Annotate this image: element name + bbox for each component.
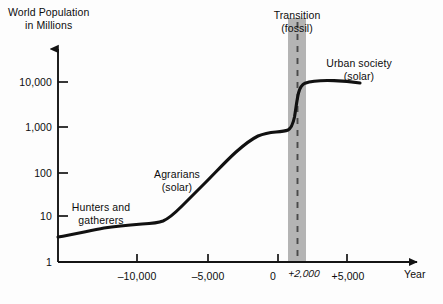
annotation-agrarians-line2: (solar) [144, 181, 210, 194]
y-axis-ticks [58, 82, 68, 216]
annotation-urban-society: Urban society (solar) [313, 57, 405, 83]
x-tick-label-0: 0 [262, 270, 284, 283]
population-growth-chart-figure: World Population in Millions Year 10,000… [0, 0, 443, 304]
y-tick-label-10000: 10,000 [0, 76, 52, 89]
annotation-transition-fossil: Transition (fossil) [254, 9, 340, 35]
annotation-agrarians-line1: Agrarians [144, 168, 210, 181]
annotation-urban-line2: (solar) [313, 70, 405, 83]
y-axis-title-line1: World Population [8, 6, 89, 19]
y-axis-title: World Population in Millions [8, 6, 89, 32]
transition-band [288, 18, 306, 262]
chart-plot-area [0, 0, 443, 304]
y-tick-label-100: 100 [0, 167, 52, 180]
y-tick-label-1000: 1,000 [0, 121, 52, 134]
annotation-transition-line2: (fossil) [254, 22, 340, 35]
annotation-agrarians: Agrarians (solar) [144, 168, 210, 194]
annotation-urban-line1: Urban society [313, 57, 405, 70]
x-tick-label-minus-10000: –10,000 [101, 270, 173, 283]
x-axis-title: Year [404, 268, 426, 281]
x-axis-ticks [137, 254, 347, 262]
y-tick-label-1: 1 [0, 256, 52, 269]
annotation-hunters-line1: Hunters and [58, 201, 144, 214]
x-tick-label-plus-5000: +5,000 [320, 270, 376, 283]
y-axis-title-line2: in Millions [8, 19, 89, 32]
annotation-transition-line1: Transition [254, 9, 340, 22]
x-tick-label-minus-5000: –5,000 [174, 270, 242, 283]
annotation-hunters-line2: gatherers [58, 214, 144, 227]
y-tick-label-10: 10 [0, 210, 52, 223]
annotation-hunters-and-gatherers: Hunters and gatherers [58, 201, 144, 227]
